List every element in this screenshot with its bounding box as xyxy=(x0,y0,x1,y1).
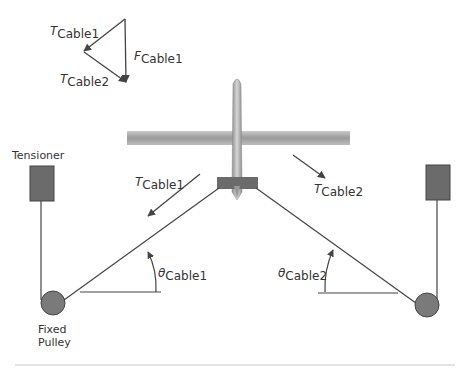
pulley-label-line1: Fixed xyxy=(38,323,67,336)
tensioner-left xyxy=(30,166,54,201)
theta-cable2-label: θCable2 xyxy=(278,266,327,283)
theta-cable1-label: θCable1 xyxy=(158,266,207,283)
f-cable1-triangle-label: FCable1 xyxy=(134,49,183,66)
t-cable2-arrow xyxy=(293,155,325,178)
tensioner-label: Tensioner xyxy=(11,149,65,162)
fixed-pulley-left xyxy=(41,291,65,315)
pulley-label-line2: Pulley xyxy=(38,336,71,349)
cables xyxy=(41,188,437,306)
t-cable2-triangle-label: TCable2 xyxy=(60,72,109,89)
tensioner-right xyxy=(426,165,450,200)
theta-cable1-arc xyxy=(148,252,156,292)
cable-diagram: TCable1 FCable1 TCable2 Tensioner Fixed … xyxy=(0,0,470,376)
t-cable1-triangle-label: TCable1 xyxy=(50,24,99,41)
t-cable2-label: TCable2 xyxy=(314,182,363,199)
t-cable1-label: TCable1 xyxy=(135,175,184,192)
fixed-pulley-right xyxy=(415,293,439,317)
